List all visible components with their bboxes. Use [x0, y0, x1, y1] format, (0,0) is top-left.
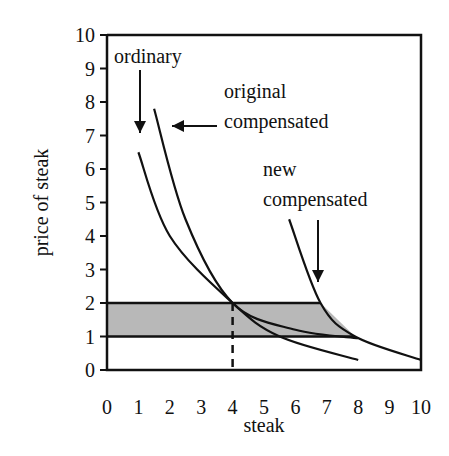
arrow-ordinary-head [134, 121, 146, 133]
x-tick-label: 3 [196, 396, 206, 418]
y-tick-label: 6 [85, 158, 95, 180]
x-axis-label: steak [243, 414, 284, 436]
y-tick-label: 0 [85, 359, 95, 381]
y-tick-label: 3 [85, 259, 95, 281]
arrow-original-head [172, 120, 184, 132]
label-new-line1: new [263, 158, 297, 180]
consumer-surplus-region [107, 303, 355, 337]
arrow-new-head [312, 270, 324, 282]
demand-chart: 012345678910012345678910steakprice of st… [0, 0, 449, 456]
y-tick-label: 1 [85, 326, 95, 348]
y-tick-label: 4 [85, 225, 95, 247]
x-tick-label: 1 [133, 396, 143, 418]
y-tick-label: 9 [85, 58, 95, 80]
x-tick-label: 0 [102, 396, 112, 418]
y-tick-label: 2 [85, 292, 95, 314]
x-tick-label: 7 [322, 396, 332, 418]
y-tick-label: 5 [85, 192, 95, 214]
y-tick-label: 8 [85, 91, 95, 113]
y-axis-label: price of steak [30, 149, 53, 257]
label-new-line2: compensated [263, 188, 367, 211]
x-tick-label: 8 [353, 396, 363, 418]
y-tick-label: 10 [75, 24, 95, 46]
x-tick-label: 4 [228, 396, 238, 418]
y-tick-label: 7 [85, 125, 95, 147]
x-tick-label: 9 [385, 396, 395, 418]
label-ordinary: ordinary [114, 45, 182, 68]
label-original-line1: original [224, 80, 287, 103]
x-tick-label: 10 [411, 396, 431, 418]
label-original-line2: compensated [224, 110, 328, 133]
x-tick-label: 2 [165, 396, 175, 418]
x-tick-label: 6 [290, 396, 300, 418]
